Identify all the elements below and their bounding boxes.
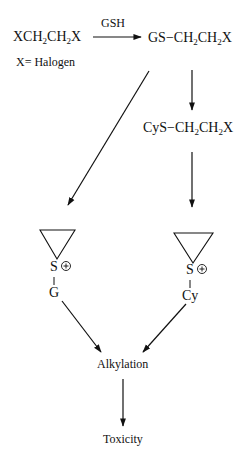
- formula-part: CyS−CH: [143, 120, 194, 135]
- halogen-note: X= Halogen: [16, 56, 75, 68]
- episulfonium-ring-g: [40, 230, 75, 259]
- formula-part: CH: [199, 120, 218, 135]
- arrow-episulfonium-g-to-alkylation: [62, 301, 101, 352]
- formula-part: X: [223, 120, 233, 135]
- arrow-episulfonium-cy-to-alkylation: [143, 304, 186, 352]
- substrate-formula: XCH2CH2X: [13, 30, 81, 44]
- formula-part: X: [222, 30, 232, 45]
- formula-part: CH: [47, 29, 66, 44]
- episulfonium-g-sulfur: S: [50, 260, 58, 274]
- episulfonium-g-substituent: G: [49, 286, 59, 300]
- cys-conjugate-formula: CyS−CH2CH2X: [143, 121, 233, 135]
- formula-part: GS−CH: [148, 30, 193, 45]
- episulfonium-cy-substituent: Cy: [182, 289, 198, 303]
- reagent-label: GSH: [101, 17, 125, 29]
- episulfonium-cy-sulfur: S: [186, 263, 194, 277]
- episulfonium-ring-cy: [174, 233, 213, 263]
- formula-part: X: [71, 29, 81, 44]
- arrow-gs-to-episulfonium-g: [68, 71, 149, 205]
- toxicity-label: Toxicity: [103, 433, 143, 445]
- alkylation-label: Alkylation: [97, 358, 148, 370]
- gs-conjugate-formula: GS−CH2CH2X: [148, 31, 232, 45]
- formula-part: CH: [198, 30, 217, 45]
- formula-part: XCH: [13, 29, 43, 44]
